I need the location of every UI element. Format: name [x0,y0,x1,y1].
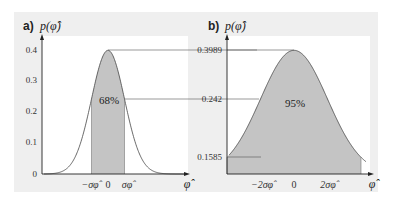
panel-b-ylabel: p(φ̂) [224,19,247,33]
x-axis-label-b: φ̂ [369,177,381,191]
x-tick-a-zero: 0 [106,179,111,190]
x-tick-b-zero: 0 [292,179,297,190]
x-tick-a-sigma: σφ̂ [122,179,136,190]
y-tick-a-0.1: 0.1 [26,137,37,147]
y-tick-a-0.2: 0.2 [26,106,37,116]
panel-b-label: b) [208,19,219,33]
y-tick-a-0.4: 0.4 [26,45,38,55]
y-tick-b-0.3989: 0.3989 [197,45,222,55]
x-axis-arrow-b [368,172,374,176]
shaded-label-95: 95% [285,97,305,109]
y-tick-b-0.242: 0.242 [202,94,222,104]
x-axis-label-a: φ̂ [184,177,196,191]
x-tick-a-minus-sigma: −σφ̂ [81,179,102,190]
panel-a-label: a) [23,19,34,33]
y-tick-a-0.3: 0.3 [26,75,38,85]
panel-a-ylabel: p(φ̂) [39,19,62,33]
y-tick-a-0: 0 [33,169,38,179]
y-tick-b-0.1585: 0.1585 [197,152,222,162]
figure: a) p(φ̂) b) p(φ̂) 0.4 0.3 0.2 0.1 0 −σφ̂… [0,0,395,199]
x-tick-b-minus-2sigma: −2σφ̂ [251,179,277,190]
shaded-label-68: 68% [99,94,119,106]
x-tick-b-2sigma: 2σφ̂ [320,179,339,190]
